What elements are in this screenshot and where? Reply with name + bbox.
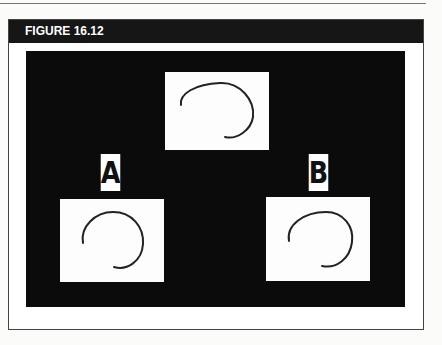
choice-label-b: B (309, 154, 329, 191)
figure-frame: FIGURE 16.12 A B (8, 19, 424, 330)
target-card (165, 72, 269, 150)
figure-title: FIGURE 16.12 (9, 20, 423, 43)
choice-card-a[interactable] (60, 199, 164, 282)
arc-drawing-icon (266, 197, 370, 281)
figure-panel: A B (26, 51, 405, 307)
top-rule (0, 3, 426, 4)
arc-drawing-icon (60, 199, 164, 282)
arc-drawing-icon (165, 72, 269, 150)
choice-label-a: A (101, 154, 121, 191)
choice-card-b[interactable] (266, 197, 370, 281)
